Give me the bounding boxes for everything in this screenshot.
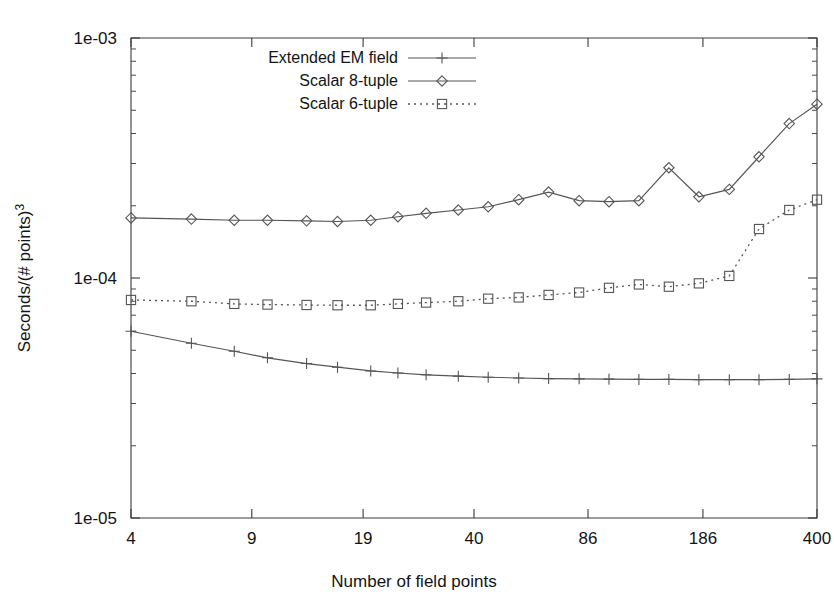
x-tick-label: 40 xyxy=(465,529,484,548)
y-axis-title-base: Seconds/(# points) xyxy=(15,210,34,352)
y-tick-label: 1e-03 xyxy=(74,29,117,48)
x-tick-label: 186 xyxy=(689,529,717,548)
chart-figure: 1e-051e-041e-03 49194086186400 Extended … xyxy=(0,0,834,614)
y-tick-label: 1e-05 xyxy=(74,509,117,528)
x-tick-label: 86 xyxy=(579,529,598,548)
x-tick-label: 9 xyxy=(247,529,256,548)
x-tick-label: 4 xyxy=(126,529,135,548)
legend-label-3: Scalar 6-tuple xyxy=(299,95,398,112)
x-tick-label: 400 xyxy=(803,529,831,548)
x-tick-label: 19 xyxy=(354,529,373,548)
y-axis-title: Seconds/(# points)3 xyxy=(13,203,34,352)
legend-label-1: Extended EM field xyxy=(268,49,398,66)
legend-label-2: Scalar 8-tuple xyxy=(299,72,398,89)
y-tick-label: 1e-04 xyxy=(74,269,117,288)
chart-background xyxy=(0,0,834,614)
x-axis-title: Number of field points xyxy=(331,572,496,591)
performance-line-chart: 1e-051e-041e-03 49194086186400 Extended … xyxy=(0,0,834,614)
y-axis-title-exponent: 3 xyxy=(13,203,27,210)
